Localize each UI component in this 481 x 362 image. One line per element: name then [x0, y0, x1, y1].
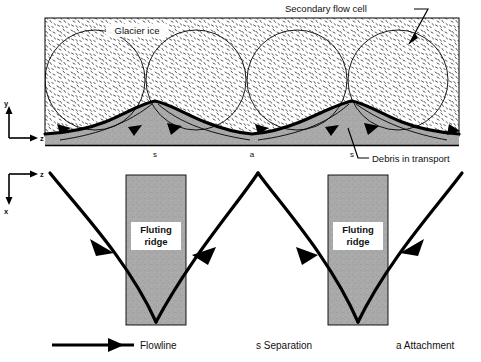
upper-axis-label-y: y: [4, 99, 9, 108]
legend-separation-label: s Separation: [256, 340, 312, 351]
fluting-ridge-right-label-line2: ridge: [346, 236, 369, 247]
axis-arrow-x-lower: [6, 197, 13, 205]
fluting-ridge-left-label-line2: ridge: [144, 236, 167, 247]
legend: Flowline s Separation a Attachment: [52, 338, 455, 352]
lower-axis-label-z: z: [40, 170, 44, 179]
legend-flowline-label: Flowline: [140, 340, 177, 351]
lower-panel: z x Fluting: [4, 170, 462, 325]
debris-in-transport-label: Debris in transport: [372, 153, 450, 164]
axis-arrow-z: [30, 135, 38, 142]
upper-axis-label-z: z: [40, 134, 44, 143]
upper-axis-indicator: [9, 112, 32, 138]
bed-marker-s-right: s: [350, 150, 354, 159]
glacier-ice-label-group: Glacier ice: [106, 24, 168, 37]
flowline-legend-arrow: [108, 338, 124, 352]
fluting-ridge-left-label-group: Fluting ridge: [131, 222, 181, 250]
flowlines: [50, 173, 462, 322]
legend-attachment-label: a Attachment: [396, 340, 455, 351]
fluting-ridge-left-label-line1: Fluting: [140, 224, 172, 235]
secondary-flow-cell-label: Secondary flow cell: [285, 3, 367, 14]
figure-canvas: s a s Glacier ice Secondary flow cell De…: [0, 0, 481, 362]
fluting-ridge-right-label-line1: Fluting: [342, 224, 374, 235]
bed-marker-s-left: s: [153, 150, 157, 159]
bed-marker-a: a: [250, 150, 255, 159]
fluting-ridge-right-label-group: Fluting ridge: [333, 222, 383, 250]
lower-axis-indicator: [9, 174, 32, 198]
upper-panel: s a s Glacier ice Secondary flow cell De…: [4, 2, 475, 165]
axis-arrow-z-lower: [30, 171, 38, 178]
glacier-ice-label: Glacier ice: [115, 25, 160, 36]
lower-axis-label-x: x: [4, 207, 9, 216]
